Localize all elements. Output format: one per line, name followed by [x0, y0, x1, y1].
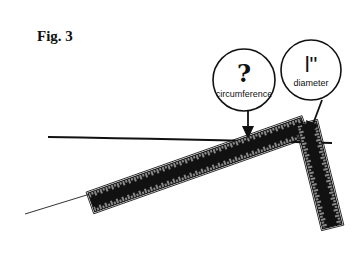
callout-label: diameter [293, 78, 328, 88]
figure-canvas: Fig. 3 ? circumference l" diameter [0, 0, 360, 253]
figure-title: Fig. 3 [37, 28, 73, 44]
slope-line [25, 194, 90, 214]
square-long-arm [86, 116, 310, 214]
square-short-arm [295, 119, 344, 230]
callout-label: circumference [216, 89, 273, 99]
one-inch-label: l" [305, 52, 318, 77]
callout-circumference: ? circumference [213, 49, 275, 139]
carpenter-square [86, 116, 344, 231]
question-mark: ? [237, 59, 251, 88]
